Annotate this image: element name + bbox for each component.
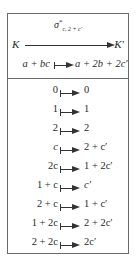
general-map-row: a + bc a + 2b + 2c′: [8, 58, 128, 74]
sigma-superscript: *: [59, 18, 63, 26]
mapping-rhs: 2 + c′: [84, 141, 107, 152]
mapsto-icon: [60, 242, 80, 249]
mapsto-icon: [60, 147, 80, 154]
mapping-row: 22: [8, 122, 128, 138]
mapsto-icon: [60, 128, 80, 135]
mapping-lhs: 1 + c: [37, 179, 58, 190]
mapsto-icon: [60, 223, 80, 230]
mapping-row: 1 + 2c2 + 2c′: [8, 217, 128, 233]
mapping-rhs: 1 + 2c′: [84, 160, 113, 171]
mapping-row: 11: [8, 103, 128, 119]
mapping-lhs: 2c: [48, 160, 58, 171]
mapping-row: 1 + cc′: [8, 179, 128, 195]
mapsto-icon: [60, 90, 80, 97]
mapping-row: 00: [8, 84, 128, 100]
mapping-rhs: c′: [84, 179, 91, 190]
mapping-table: σ*c, 2 + c′ K K′ a + bc a + 2b + 2c′ 00 …: [7, 13, 129, 254]
sigma-subscript: c, 2 + c′: [62, 26, 82, 32]
mapsto-icon: [60, 109, 80, 116]
mapping-rhs: 0: [84, 84, 89, 95]
mapping-row: 2 + 2c2c′: [8, 236, 128, 252]
mapping-lhs: 2 + 2c: [32, 236, 58, 247]
table-header: σ*c, 2 + c′ K K′ a + bc a + 2b + 2c′: [8, 14, 128, 79]
mapping-row: c2 + c′: [8, 141, 128, 157]
source-field: K: [12, 38, 19, 50]
mapping-lhs: 0: [53, 84, 58, 95]
general-rhs: a + 2b + 2c′: [75, 58, 128, 69]
mapping-lhs: 1 + 2c: [32, 217, 58, 228]
arrow-shaft: [25, 45, 112, 46]
mapsto-icon: [60, 204, 80, 211]
target-field: K′: [114, 38, 124, 50]
mapping-row: 2c1 + 2c′: [8, 160, 128, 176]
mapping-lhs: 1: [53, 103, 58, 114]
arrow-label: σ*c, 2 + c′: [8, 18, 128, 32]
mapping-rhs: 2c′: [84, 236, 96, 247]
mapping-rhs: 1: [84, 103, 89, 114]
mapping-rhs: 1 + c′: [84, 198, 107, 209]
mapping-lhs: 2 + c: [37, 198, 58, 209]
mapping-lhs: 2: [53, 122, 58, 133]
mapsto-icon: [60, 185, 80, 192]
mapsto-icon: [60, 166, 80, 173]
mapping-rhs: 2: [84, 122, 89, 133]
field-map-row: K K′: [12, 38, 124, 52]
mapping-rhs: 2 + 2c′: [84, 217, 113, 228]
mapping-row: 2 + c1 + c′: [8, 198, 128, 214]
mapping-lhs: c: [53, 141, 58, 152]
general-lhs: a + bc: [23, 58, 51, 69]
mapsto-icon: [54, 62, 74, 69]
